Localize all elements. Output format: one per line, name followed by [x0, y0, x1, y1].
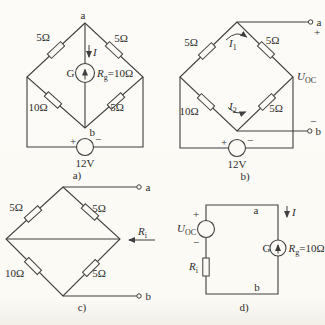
ri-resistor	[203, 258, 209, 276]
resistor-value-bottom-left: 10Ω	[5, 267, 24, 279]
circuit-b: a + 5Ω 5Ω I1 I2 10Ω 5Ω UOC − b + − 12V b…	[179, 16, 321, 183]
source-plus-sign: +	[70, 135, 76, 147]
resistor-bottom-left	[197, 94, 214, 111]
galvanometer-label: G	[263, 242, 271, 254]
current-label: I	[291, 206, 297, 218]
terminal-plus-sign: +	[314, 26, 320, 38]
galvanometer-label: G	[67, 67, 75, 79]
node-label-b: b	[146, 290, 152, 302]
node-label-b: b	[316, 125, 322, 137]
uoc-plus-sign: +	[193, 208, 199, 220]
resistor-top-left	[47, 42, 64, 59]
resistor-value-bottom-right: 5Ω	[110, 101, 124, 113]
uoc-minus-sign: −	[193, 236, 199, 248]
galvanometer-resistance-label: Rg=10Ω	[96, 67, 133, 82]
terminal-a-dot	[308, 20, 312, 24]
caption-d: d)	[239, 301, 249, 314]
resistor-bottom-left	[25, 258, 42, 275]
node-label-a: a	[254, 204, 259, 216]
caption-c: c)	[78, 301, 87, 314]
resistor-top-right	[105, 42, 122, 59]
resistor-value-top-left: 5Ω	[9, 201, 23, 213]
current-i2-label: I2	[228, 100, 237, 115]
resistor-value-top-right: 5Ω	[114, 32, 128, 44]
resistor-value-top-left: 5Ω	[184, 36, 198, 48]
uoc-label: UOC	[297, 70, 316, 85]
circuit-a: a 5Ω 5Ω I G Rg=10Ω 10Ω 5Ω b + − 12V a)	[27, 9, 143, 182]
source-value: 12V	[228, 158, 247, 170]
terminal-b-dot	[308, 129, 312, 133]
resistor-top-left	[24, 206, 41, 223]
resistor-top-left	[198, 43, 215, 60]
galvanometer-resistance-label: Rg=10Ω	[288, 242, 325, 257]
voltage-source-circle	[77, 139, 94, 156]
voltage-source-circle	[229, 140, 246, 157]
circuit-figure: a 5Ω 5Ω I G Rg=10Ω 10Ω 5Ω b + − 12V a) a…	[0, 0, 325, 325]
resistor-value-top-left: 5Ω	[36, 31, 50, 43]
uoc-label: UOC	[177, 222, 196, 237]
terminal-a-dot	[137, 185, 141, 189]
source-minus-sign: −	[247, 134, 253, 146]
resistor-value-top-right: 5Ω	[92, 202, 106, 214]
circuit-c: a 5Ω 5Ω Ri 10Ω 5Ω b c)	[5, 181, 155, 314]
resistor-value-bottom-left: 10Ω	[28, 101, 47, 113]
source-plus-sign: +	[221, 136, 227, 148]
source-value: 12V	[76, 157, 95, 169]
resistor-value-top-right: 5Ω	[266, 34, 280, 46]
ri-label: Ri	[137, 225, 148, 240]
resistor-value-bottom-right: 5Ω	[92, 267, 106, 279]
node-label-a: a	[146, 181, 151, 193]
circuit-d: + UOC − Ri a b I G Rg=10Ω d)	[177, 204, 325, 314]
uoc-source-circle	[198, 221, 215, 238]
resistor-value-bottom-left: 10Ω	[179, 105, 198, 117]
ri-label: Ri	[188, 260, 199, 275]
scanned-figure-page: a 5Ω 5Ω I G Rg=10Ω 10Ω 5Ω b + − 12V a) a…	[0, 0, 325, 325]
source-minus-sign: −	[95, 133, 101, 145]
current-label: I	[92, 46, 98, 58]
caption-b: b)	[240, 170, 250, 183]
terminal-b-dot	[137, 294, 141, 298]
caption-a: a)	[73, 169, 82, 182]
node-label-b: b	[254, 281, 260, 293]
node-label-a: a	[81, 9, 86, 21]
resistor-value-bottom-right: 5Ω	[269, 102, 283, 114]
current-i1-label: I1	[228, 37, 237, 52]
